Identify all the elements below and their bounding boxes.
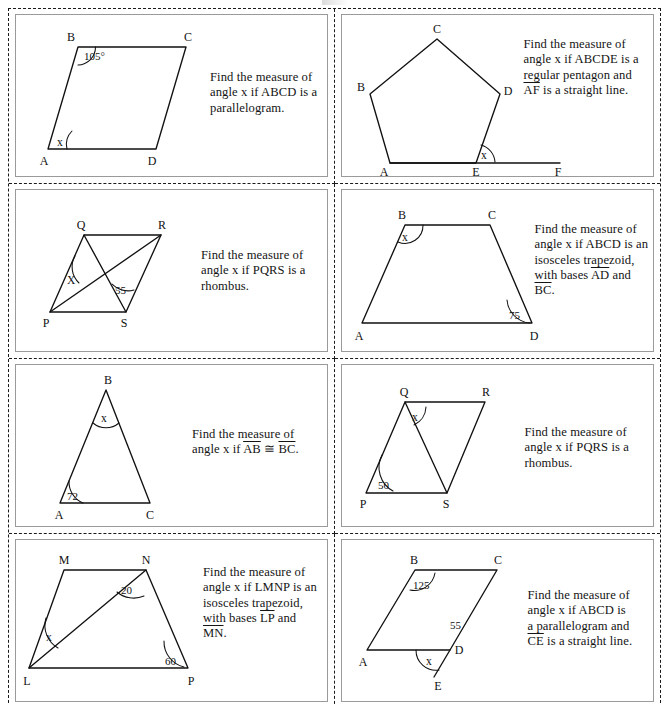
card-isosceles-triangle-abc-72[interactable]: B A C x 72 Find the measure of angle x i… [15,364,328,527]
task-card-cell: Q R P S x 50 Find the measure of angle x… [335,359,661,534]
angle-value-55: 55 [450,619,462,631]
angle-value-x: x [402,231,408,243]
prompt-line: angle x if LMNP is an [203,580,328,595]
prompt-line: BC. [535,283,655,298]
prompt-line: CE is a straight line. [528,634,655,649]
prompt-line: angle x if PQRS is a [201,263,328,278]
congruent-symbol: ≅ [264,442,275,456]
angle-value-x: x [426,655,432,667]
card-prompt: Find the measure of angle x if ABCDE is … [524,37,655,98]
task-card-grid: B C A D 105° x Find the measure of angle… [8,8,661,704]
worksheet-sheet: B C A D 105° x Find the measure of angle… [0,0,669,704]
angle-value-60: 60 [165,655,177,667]
prompt-line: Find the measure of [192,427,328,442]
segment-bc: BC [278,442,295,456]
prompt-line: MN. [203,626,328,641]
prompt-line: isosceles trapezoid, [535,253,655,268]
prompt-line: Find the measure of [535,222,655,237]
card-isosceles-trapezoid-lmnp[interactable]: M N L P 20 x 60 Find the measure of angl… [15,539,328,702]
vertex-label-m: M [59,553,70,567]
task-card-cell: C B D A E F x Find the measure of angle … [335,9,661,184]
vertex-label-d: D [454,643,463,657]
vertex-label-a: A [55,508,64,522]
vertex-label-c: C [432,22,440,36]
prompt-line: angle x if ABCD is [528,603,655,618]
segment-af: AF [524,83,540,97]
angle-arc-a [66,131,72,149]
prompt-line: angle x if ABCD is an [535,237,655,252]
angle-value-x: x [46,631,52,643]
vertex-label-c: C [487,208,495,222]
angle-value-b: 105° [84,50,105,62]
vertex-label-r: R [158,218,166,232]
vertex-label-b: B [356,80,364,94]
prompt-line: angle x if AB ≅ BC. [192,442,328,457]
prompt-line: angle x if ABCD is a [210,85,328,100]
prompt-line: regular pentagon and [524,68,655,83]
triangle-outline [60,390,150,503]
angle-value-x: x [57,136,63,148]
parallelogram-outline [367,570,497,650]
pentagon-outline [370,39,500,163]
prompt-line: AF is a straight line. [524,83,655,98]
vertex-label-e: E [434,679,441,693]
angle-value-x: X [67,274,76,286]
segment-bc: BC [535,283,552,297]
vertex-label-b: B [397,208,405,222]
task-card-cell: B A C x 72 Find the measure of angle x i… [9,359,335,534]
segment-ab: AB [243,442,261,456]
vertex-label-c: C [493,553,501,567]
card-rhombus-pqrs-55[interactable]: Q R P S X 55 Find the measure of angle x… [15,189,328,352]
vertex-label-d: D [529,329,538,343]
card-parallelogram-abcd-105[interactable]: B C A D 105° x Find the measure of angle… [15,14,328,177]
prompt-line: parallelogram. [210,101,328,116]
prompt-line: rhombus. [201,279,328,294]
angle-value-125: 125 [413,579,430,591]
prompt-line: Find the measure of [528,588,655,603]
card-prompt: Find the measure of angle x if ABCD is a… [535,222,655,299]
vertex-label-d: D [148,154,157,168]
card-prompt: Find the measure of angle x if ABCD is a… [528,588,655,649]
prompt-line: Find the measure of [203,565,328,580]
prompt-line: Find the measure of [525,425,655,440]
vertex-label-n: N [142,553,151,567]
angle-value-72: 72 [67,490,78,502]
prompt-line: with bases LP and [203,611,328,626]
vertex-label-a: A [354,329,363,343]
card-prompt: Find the measure of angle x if ABCD is a… [210,70,328,116]
angle-value-x: x [412,411,418,423]
card-parallelogram-abcd-125-55[interactable]: B C A D E 125 55 x Find the measure of a… [341,539,655,702]
task-card-cell: B C A D E 125 55 x Find the measure of a… [335,534,661,704]
vertex-label-a: A [379,165,388,177]
card-prompt: Find the measure of angle x if PQRS is a… [201,248,328,294]
vertex-label-p: P [43,316,50,330]
prompt-line: with bases AD and [535,268,655,283]
prompt-line: angle x if ABCDE is a [524,52,655,67]
prompt-line: angle x if PQRS is a [525,440,655,455]
angle-value-x: x [101,412,107,424]
task-card-cell: Q R P S X 55 Find the measure of angle x… [9,184,335,359]
segment-d-to-e [434,650,450,677]
angle-value-55: 55 [115,284,127,296]
segment-mn: MN [203,626,224,640]
parallelogram-outline [48,47,186,149]
prompt-line: isosceles trapezoid, [203,596,328,611]
vertex-label-p: P [188,674,195,688]
prompt-line: Find the measure of [210,70,328,85]
task-card-cell: B C A D 105° x Find the measure of angle… [9,9,335,184]
segment-ad: AD [591,268,609,282]
vertex-label-c: C [184,30,192,44]
vertex-label-a: A [358,655,367,669]
card-regular-pentagon-abcde[interactable]: C B D A E F x Find the measure of angle … [341,14,655,177]
card-rhombus-pqrs-50[interactable]: Q R P S x 50 Find the measure of angle x… [341,364,655,527]
vertex-label-d: D [503,84,512,98]
angle-value-50: 50 [378,479,390,491]
card-isosceles-trapezoid-abcd-75[interactable]: B C A D x 75 Find the measure of angle x… [341,189,655,352]
trapezoid-outline [29,570,188,668]
vertex-label-f: F [554,165,561,177]
task-card-cell: M N L P 20 x 60 Find the measure of angl… [9,534,335,704]
card-prompt: Find the measure of angle x if AB ≅ BC. [192,427,328,458]
card-prompt: Find the measure of angle x if PQRS is a… [525,425,655,471]
prompt-line: rhombus. [525,456,655,471]
task-card-cell: B C A D x 75 Find the measure of angle x… [335,184,661,359]
